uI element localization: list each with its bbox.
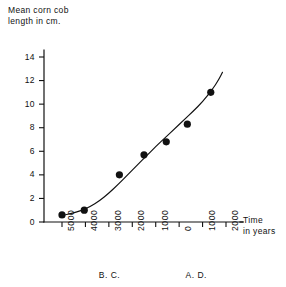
x-tick-label-1: 4000 [89,210,99,231]
plot-area [0,0,286,287]
y-tick-label-2: 4 [13,169,35,179]
y-tick-label-6: 12 [13,75,35,85]
data-point-4 [163,138,170,145]
data-points [58,89,214,219]
y-tick-label-7: 14 [13,52,35,62]
era-label-ad: A. D. [186,270,207,280]
y-tick-label-4: 8 [13,122,35,132]
y-tick-label-5: 10 [13,99,35,109]
x-tick-label-7: 2000 [230,210,240,231]
x-tick-label-6: 1000 [207,210,217,231]
x-tick-label-3: 2000 [136,210,146,231]
data-point-2 [116,171,123,178]
era-label-bc: B. C. [99,270,120,280]
data-point-6 [207,89,214,96]
data-point-3 [140,151,147,158]
x-tick-label-5: 0 [183,226,193,231]
fit-curve [62,72,222,215]
trend-curve-path [62,72,222,215]
y-tick-label-0: 0 [13,217,35,227]
axes-group [44,50,243,222]
data-point-1 [81,207,88,214]
x-tick-label-4: 1000 [160,210,170,231]
ticks-group [39,57,226,227]
x-tick-label-2: 3000 [113,210,123,231]
chart-figure: Mean corn cob length in cm. Time in year… [0,0,286,287]
data-point-0 [58,211,65,218]
y-tick-label-3: 6 [13,146,35,156]
x-tick-label-0: 5000 [66,210,76,231]
y-tick-label-1: 2 [13,193,35,203]
data-point-5 [184,121,191,128]
